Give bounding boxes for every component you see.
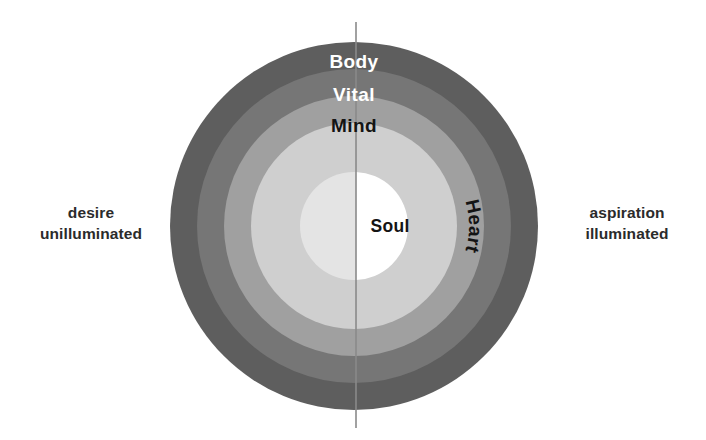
right-side-label: aspiration illuminated — [552, 203, 702, 245]
right-side-label-line2: illuminated — [552, 224, 702, 245]
ring-label-mind: Mind — [331, 115, 377, 136]
left-side-label-line2: unilluminated — [16, 224, 166, 245]
right-side-label-line1: aspiration — [552, 203, 702, 224]
core-label-soul: Soul — [370, 216, 409, 236]
diagram-canvas: Body Vital Mind Heart Soul desire unillu… — [0, 0, 706, 440]
left-side-label-line1: desire — [16, 203, 166, 224]
ring-label-vital: Vital — [333, 84, 375, 105]
left-side-label: desire unilluminated — [16, 203, 166, 245]
ring-label-body: Body — [329, 51, 378, 72]
